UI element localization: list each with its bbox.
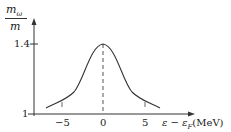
- ylabel-numerator: mω: [6, 4, 22, 18]
- y-axis-arrow-icon: [32, 18, 37, 25]
- ylabel-denominator: m: [10, 21, 20, 32]
- xlabel: ε − εF(MeV): [162, 118, 224, 131]
- x-axis-arrow-icon: [188, 112, 195, 117]
- xtick-label-0: 0: [100, 118, 106, 128]
- ytick-label-1.4: 1.4: [14, 39, 30, 49]
- xtick-label-neg5: −5: [55, 118, 70, 128]
- ylabel-fraction-bar: [5, 18, 27, 19]
- xtick-label-5: 5: [142, 118, 148, 128]
- ytick-label-1: 1: [22, 109, 28, 119]
- plot-area: [0, 0, 231, 132]
